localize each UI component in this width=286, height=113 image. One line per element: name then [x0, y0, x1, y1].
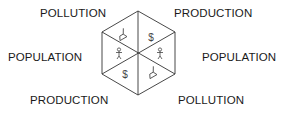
- person-icon: [116, 48, 122, 59]
- smokestack-icon: [116, 28, 128, 40]
- person-icon: [157, 48, 163, 59]
- hexagon-diagram: $ $: [0, 0, 286, 113]
- dollar-icon: $: [122, 69, 128, 80]
- smokestack-icon: [146, 66, 158, 78]
- dollar-icon: $: [148, 32, 154, 43]
